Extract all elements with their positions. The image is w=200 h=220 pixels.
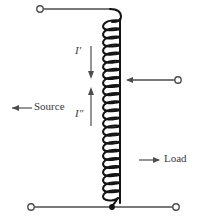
source-arrow [12,105,32,111]
current-lower-label: I″ [75,108,83,119]
load-arrow [139,157,160,163]
coil-turns [103,20,120,200]
bottom-left-terminal[interactable] [28,204,34,210]
tap-feed-arrow [126,77,133,83]
right-middle-terminal[interactable] [175,77,181,83]
top-left-terminal[interactable] [37,6,43,12]
circuit-schematic-svg [0,0,200,220]
coil-group [103,9,121,206]
load-label: Load [164,153,187,164]
current-lower-arrow [88,87,94,126]
autotransformer-diagram: Source Load I′ I″ [0,0,200,220]
bottom-junction-dot [109,204,115,210]
current-upper-label: I′ [75,45,81,56]
current-upper-arrow [88,46,94,79]
source-label: Source [34,101,65,112]
bottom-right-terminal[interactable] [173,204,179,210]
